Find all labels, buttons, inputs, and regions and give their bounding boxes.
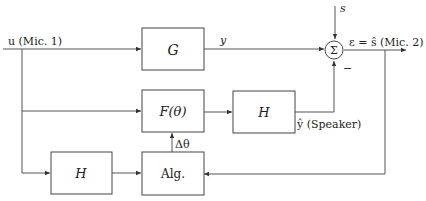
block-alg-label: Alg.	[160, 167, 185, 181]
block-g-label: G	[167, 42, 178, 58]
block-diagram: G F(θ) H H Alg. Σ − u (Mic. 1) y s ε = ŝ…	[0, 0, 426, 201]
block-h-lower-label: H	[74, 166, 87, 181]
input-label: u (Mic. 1)	[8, 35, 62, 48]
speaker-label: ŷ (Speaker)	[296, 118, 361, 131]
minus-sign: −	[343, 62, 352, 75]
speaker-line	[294, 61, 334, 112]
s-label: s	[340, 2, 346, 15]
output-label: ε = ŝ (Mic. 2)	[349, 36, 424, 49]
block-h-upper-label: H	[257, 105, 270, 120]
sigma-symbol: Σ	[330, 44, 338, 57]
y-label: y	[219, 34, 227, 47]
delta-theta-label: Δθ	[175, 138, 190, 151]
block-f-label: F(θ)	[159, 104, 187, 119]
